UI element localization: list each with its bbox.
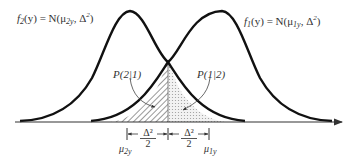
half-gap-left: Δ² 2 bbox=[140, 128, 156, 149]
label-p12: P(1|2) bbox=[197, 68, 225, 80]
label-p21: P(2|1) bbox=[113, 68, 141, 80]
label-mu2y: μ2y bbox=[119, 143, 132, 156]
half-gap-right: Δ² 2 bbox=[181, 128, 197, 149]
label-f2: f2(y) = N(μ2y, Δ2) bbox=[17, 11, 93, 26]
label-f1: f1(y) = N(μ1y, Δ2) bbox=[244, 14, 320, 29]
label-mu1y: μ1y bbox=[204, 143, 217, 156]
